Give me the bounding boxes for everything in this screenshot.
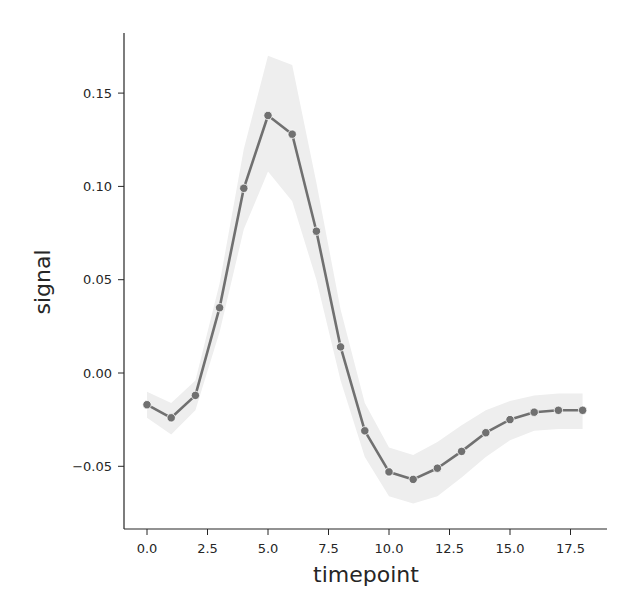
data-point-marker [385, 468, 393, 476]
data-point-marker [457, 447, 465, 455]
data-point-marker [167, 414, 175, 422]
x-tick-label: 17.5 [556, 541, 585, 556]
y-ticks: −0.050.000.050.100.15 [72, 86, 124, 474]
y-tick-label: 0.00 [83, 366, 112, 381]
data-point-marker [482, 429, 490, 437]
data-point-marker [336, 343, 344, 351]
y-tick-label: 0.10 [83, 179, 112, 194]
y-axis-label: signal [30, 249, 55, 314]
data-point-marker [578, 406, 586, 414]
data-point-marker [409, 475, 417, 483]
data-point-marker [530, 408, 538, 416]
data-point-marker [240, 184, 248, 192]
y-tick-label: 0.05 [83, 272, 112, 287]
data-point-marker [215, 304, 223, 312]
line-chart: −0.050.000.050.100.15 0.02.55.07.510.012… [0, 0, 637, 614]
data-point-marker [433, 464, 441, 472]
x-tick-label: 10.0 [375, 541, 404, 556]
x-tick-label: 0.0 [137, 541, 158, 556]
x-tick-label: 15.0 [496, 541, 525, 556]
x-tick-label: 5.0 [258, 541, 279, 556]
x-tick-label: 7.5 [318, 541, 339, 556]
data-point-marker [554, 406, 562, 414]
data-point-marker [264, 111, 272, 119]
data-point-marker [506, 415, 514, 423]
y-tick-label: −0.05 [72, 459, 112, 474]
data-point-marker [312, 227, 320, 235]
x-tick-label: 2.5 [197, 541, 218, 556]
confidence-band [147, 56, 583, 504]
data-point-marker [143, 401, 151, 409]
x-axis-label: timepoint [313, 562, 419, 587]
x-ticks: 0.02.55.07.510.012.515.017.5 [137, 529, 585, 556]
data-point-marker [288, 130, 296, 138]
data-point-marker [191, 391, 199, 399]
y-tick-label: 0.15 [83, 86, 112, 101]
ci-band-layer [147, 56, 583, 504]
data-point-marker [361, 427, 369, 435]
x-tick-label: 12.5 [435, 541, 464, 556]
